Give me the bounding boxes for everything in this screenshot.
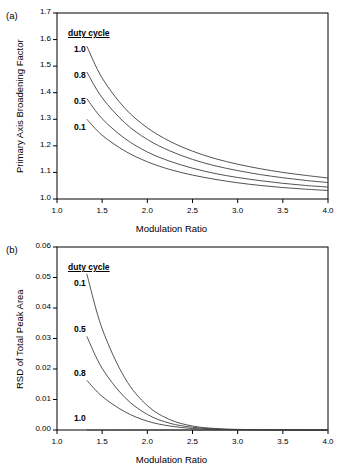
y-tick-label: 0.02 [5, 363, 51, 372]
plot-frame [57, 13, 328, 199]
x-tick-label: 1.0 [42, 206, 72, 215]
x-tick-label: 3.0 [223, 206, 253, 215]
x-tick-label: 2.0 [132, 437, 162, 446]
y-tick-label: 1.6 [5, 34, 51, 43]
x-tick-label: 1.5 [87, 206, 117, 215]
y-tick-label: 0.00 [5, 424, 51, 433]
y-tick-label: 0.05 [5, 272, 51, 281]
data-curve-0-5 [87, 336, 328, 430]
x-tick-label: 1.5 [87, 437, 117, 446]
legend-value-1-0: 1.0 [74, 413, 86, 423]
data-curve-0-1 [87, 274, 328, 430]
legend-value-1-0: 1.0 [74, 44, 86, 54]
figure-container: (a) Primary Axis Broadening Factor Modul… [0, 0, 343, 476]
y-tick-label: 0.01 [5, 394, 51, 403]
y-tick-label: 1.7 [5, 7, 51, 16]
legend-value-0-5: 0.5 [74, 96, 86, 106]
x-tick-label: 2.5 [178, 206, 208, 215]
legend-title: duty cycle [68, 262, 110, 272]
x-tick-label: 1.0 [42, 437, 72, 446]
x-tick-label: 4.0 [313, 437, 343, 446]
x-tick-label: 3.5 [268, 206, 298, 215]
y-tick-label: 1.1 [5, 166, 51, 175]
legend-value-0-8: 0.8 [74, 368, 86, 378]
panel-a-plot-area [0, 0, 343, 238]
data-curve-0-8 [87, 380, 328, 430]
legend-value-0-5: 0.5 [74, 324, 86, 334]
legend-title: duty cycle [68, 28, 110, 38]
y-tick-label: 1.3 [5, 113, 51, 122]
y-tick-label: 1.5 [5, 60, 51, 69]
data-curve-1-0 [87, 46, 328, 178]
x-tick-label: 3.0 [223, 437, 253, 446]
y-tick-label: 1.2 [5, 140, 51, 149]
data-curve-0-1 [87, 119, 328, 190]
y-tick-label: 0.04 [5, 302, 51, 311]
x-tick-label: 3.5 [268, 437, 298, 446]
legend-value-0-1: 0.1 [74, 122, 86, 132]
data-curve-0-8 [87, 72, 328, 183]
x-tick-label: 2.5 [178, 437, 208, 446]
y-tick-label: 1.0 [5, 193, 51, 202]
y-tick-label: 1.4 [5, 87, 51, 96]
y-tick-label: 0.03 [5, 333, 51, 342]
x-tick-label: 4.0 [313, 206, 343, 215]
legend-value-0-1: 0.1 [74, 278, 86, 288]
plot-frame [57, 247, 328, 430]
y-tick-label: 0.06 [5, 241, 51, 250]
legend-value-0-8: 0.8 [74, 70, 86, 80]
panel-a: (a) Primary Axis Broadening Factor Modul… [0, 0, 343, 238]
panel-b: (b) RSD of Total Peak Area Modulation Ra… [0, 238, 343, 476]
x-tick-label: 2.0 [132, 206, 162, 215]
